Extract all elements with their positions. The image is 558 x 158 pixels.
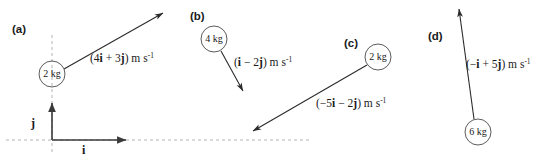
panel-b-vel-op: − (241, 56, 253, 68)
panel-b: (b) 4 kg (i − 2j) m s-1 (190, 10, 292, 91)
panel-d-vel-exponent: -1 (524, 57, 530, 66)
panel-c-letter: (c) (344, 37, 358, 49)
panel-d-vel-open: (− (466, 58, 476, 71)
panel-a-vel-op: + (103, 52, 115, 64)
panel-c-vel-close: ) m s (357, 97, 381, 110)
panel-a-velocity-label: (4i + 3j) m s-1 (90, 51, 154, 65)
panel-d-letter: (d) (428, 30, 443, 42)
i-unit-vector-label: i (82, 143, 86, 157)
panel-a-vel-close: ) m s (125, 52, 149, 65)
figure-canvas: j i (a) 2 kg (4i + 3j) m s-1 (b) 4 kg (i… (0, 0, 558, 158)
panel-a: (a) 2 kg (4i + 3j) m s-1 (12, 13, 163, 87)
panel-d-velocity-label: (−i + 5j) m s-1 (466, 57, 531, 71)
panel-c-vel-exponent: -1 (380, 96, 386, 105)
panel-b-letter: (b) (190, 10, 205, 22)
panel-d-mass-label: 6 kg (469, 126, 487, 137)
panel-b-velocity-label: (i − 2j) m s-1 (234, 55, 292, 69)
panel-c-vel-open: (− (316, 97, 326, 110)
panel-c-mass-label: 2 kg (369, 51, 387, 62)
panel-b-mass-label: 4 kg (205, 33, 223, 44)
panel-b-vel-exponent: -1 (286, 55, 292, 64)
reference-axes: j i (6, 34, 310, 157)
panel-a-vel-exponent: -1 (148, 51, 154, 60)
velocity-vector-figure: j i (a) 2 kg (4i + 3j) m s-1 (b) 4 kg (i… (0, 0, 558, 158)
panel-c: (c) 2 kg (−5i − 2j) m s-1 (253, 37, 391, 131)
panel-b-vel-close: ) m s (263, 56, 287, 69)
panel-a-mass-label: 2 kg (43, 68, 61, 79)
panel-c-vel-op: − (335, 97, 347, 109)
panel-d-vel-close: ) m s (501, 58, 525, 71)
panel-d: (d) 6 kg (−i + 5j) m s-1 (428, 9, 531, 145)
panel-a-letter: (a) (12, 23, 26, 35)
j-unit-vector-label: j (30, 116, 35, 130)
panel-c-velocity-label: (−5i − 2j) m s-1 (316, 96, 387, 110)
panel-d-vel-op: + (480, 58, 492, 70)
